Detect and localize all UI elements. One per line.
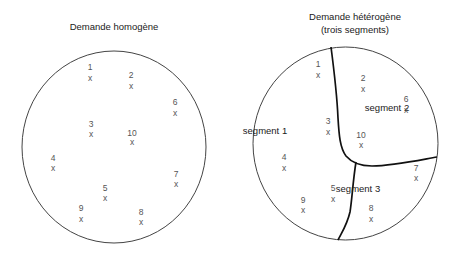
right-point-1: 1 x (316, 59, 321, 80)
left-point-4: 4 x (51, 153, 56, 173)
point-label: 7 (174, 169, 179, 179)
point-label: 6 (173, 97, 178, 107)
point-marker-icon: x (282, 163, 287, 173)
point-marker-icon: x (326, 127, 331, 137)
right-point-8: 8 x (369, 203, 374, 224)
point-marker-icon: x (361, 84, 366, 94)
right-panel-title: Demande hétérogène (309, 11, 401, 22)
left-point-8: 8 x (139, 207, 144, 227)
point-label: 8 (139, 207, 144, 217)
point-label: 4 (51, 153, 56, 163)
left-panel: Demande homogène 1 x 2 x 3 x 4 x 5 x 6 x… (22, 21, 206, 243)
point-label: 6 (404, 94, 409, 104)
point-marker-icon: x (88, 73, 93, 83)
segment-1-label: segment 1 (243, 125, 287, 136)
point-label: 1 (88, 62, 93, 72)
segment-divider-1-3 (338, 162, 356, 240)
left-point-10: 10 x (127, 128, 137, 147)
left-point-5: 5 x (103, 183, 108, 203)
point-label: 9 (79, 203, 84, 213)
segment-3-label: segment 3 (336, 183, 380, 194)
point-label: 5 (331, 183, 336, 193)
point-marker-icon: x (79, 214, 84, 224)
point-label: 10 (356, 130, 366, 140)
left-point-9: 9 x (79, 203, 84, 224)
right-panel: Demande hétérogène (trois segments) segm… (243, 11, 438, 240)
right-point-7: 7 x (414, 163, 419, 183)
left-panel-title: Demande homogène (70, 21, 159, 32)
right-point-2: 2 x (361, 73, 366, 94)
left-market-circle (22, 51, 206, 243)
point-label: 3 (326, 116, 331, 126)
right-panel-subtitle: (trois segments) (321, 24, 389, 35)
point-label: 2 (129, 70, 134, 80)
point-marker-icon: x (103, 193, 108, 203)
point-marker-icon: x (130, 137, 135, 147)
point-label: 5 (103, 183, 108, 193)
right-point-6: 6 x (404, 94, 409, 115)
point-marker-icon: x (331, 194, 336, 204)
left-point-6: 6 x (173, 97, 178, 118)
segment-2-label: segment 2 (365, 102, 409, 113)
point-marker-icon: x (174, 179, 179, 189)
point-marker-icon: x (301, 205, 306, 215)
right-point-5: 5 x (331, 183, 336, 204)
right-point-3: 3 x (326, 116, 331, 137)
right-point-10: 10 x (356, 130, 366, 150)
point-label: 9 (301, 195, 306, 205)
left-point-2: 2 x (129, 70, 134, 91)
point-marker-icon: x (51, 163, 56, 173)
right-point-9: 9 x (301, 195, 306, 215)
point-label: 7 (414, 163, 419, 173)
point-marker-icon: x (173, 108, 178, 118)
point-label: 1 (316, 59, 321, 69)
left-point-7: 7 x (174, 169, 179, 189)
left-point-3: 3 x (89, 119, 94, 139)
left-point-1: 1 x (88, 62, 93, 83)
right-market-circle (253, 47, 438, 240)
point-marker-icon: x (359, 140, 364, 150)
right-point-4: 4 x (282, 152, 287, 173)
point-label: 4 (282, 152, 287, 162)
point-marker-icon: x (369, 214, 374, 224)
point-marker-icon: x (139, 217, 144, 227)
point-marker-icon: x (414, 173, 419, 183)
point-marker-icon: x (89, 129, 94, 139)
point-label: 8 (369, 203, 374, 213)
point-label: 2 (361, 73, 366, 83)
point-marker-icon: x (129, 81, 134, 91)
point-label: 3 (89, 119, 94, 129)
point-marker-icon: x (316, 70, 321, 80)
demand-segmentation-diagram: Demande homogène 1 x 2 x 3 x 4 x 5 x 6 x… (0, 0, 459, 253)
